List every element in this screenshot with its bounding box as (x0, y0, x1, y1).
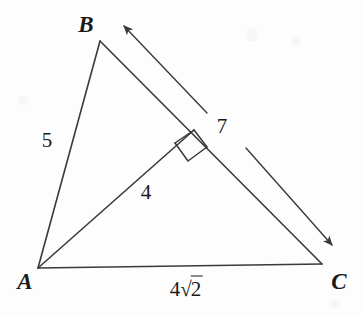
side-bc (100, 41, 322, 264)
arrow-toward-b (124, 26, 207, 113)
radical-coefficient: 4 (170, 277, 181, 301)
measure-label-ab: 5 (42, 130, 53, 151)
vertex-label-a: A (17, 270, 32, 293)
side-ab (38, 41, 100, 268)
diagram-canvas (0, 0, 362, 316)
radical-radicand: 2 (191, 276, 203, 301)
right-angle-marker-edge-left (175, 130, 194, 143)
geometry-figure: A B C 5 4 7 4√2 (0, 0, 362, 316)
altitude-line (38, 130, 194, 268)
measure-label-ac: 4√2 (170, 279, 203, 300)
measure-label-altitude: 4 (141, 182, 152, 203)
right-angle-marker (175, 143, 207, 161)
side-ac (38, 264, 322, 268)
vertex-label-b: B (78, 13, 93, 36)
vertex-label-c: C (331, 270, 346, 293)
measure-label-bc: 7 (217, 116, 228, 137)
